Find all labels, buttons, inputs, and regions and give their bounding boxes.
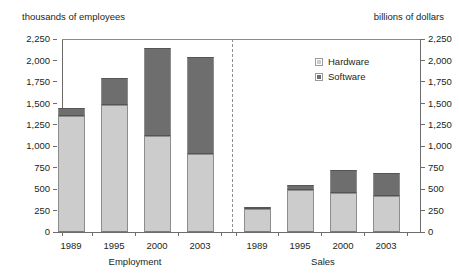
category-tick-mark <box>62 232 63 236</box>
group-axis-label-sales: Sales <box>263 256 383 267</box>
bar-sales-2003 <box>373 173 400 232</box>
left-axis-tick-label: 2,250 <box>20 34 50 44</box>
right-axis-tick-label: 2,000 <box>428 56 458 66</box>
plot-baseline <box>57 232 425 233</box>
left-axis-tick-label: 1,750 <box>20 77 50 87</box>
bar-sales-1995 <box>287 185 314 232</box>
bar-segment-hardware <box>330 193 357 232</box>
bar-employment-2000 <box>144 48 171 232</box>
bar-segment-hardware <box>244 209 271 232</box>
legend-label: Software <box>328 71 366 82</box>
right-axis-tick-mark <box>421 146 425 147</box>
right-axis-tick-mark <box>421 103 425 104</box>
left-axis-tick-mark <box>53 189 57 190</box>
category-tick-mark <box>135 232 136 236</box>
bar-segment-software <box>144 48 171 135</box>
left-axis-tick-mark <box>53 103 57 104</box>
right-axis-tick-mark <box>421 167 425 168</box>
group-axis-label-employment: Employment <box>75 256 195 267</box>
right-axis-ticks: 2,2502,0001,7501,5001,2501,0007505002500 <box>421 39 459 232</box>
bar-sales-1989 <box>244 207 271 232</box>
chart-legend: HardwareSoftware <box>315 56 369 82</box>
bar-segment-software <box>373 173 400 196</box>
left-axis-tick-mark <box>53 210 57 211</box>
legend-swatch-fill <box>316 74 322 80</box>
left-axis-tick-label: 1,500 <box>20 99 50 109</box>
bar-segment-software <box>58 108 85 117</box>
left-axis-tick-mark <box>53 167 57 168</box>
bar-employment-2003 <box>187 57 214 232</box>
bar-segment-software <box>187 57 214 154</box>
category-tick-mark <box>321 232 322 236</box>
left-axis-tick-label: 250 <box>20 206 50 216</box>
right-axis-tick-mark <box>421 81 425 82</box>
category-tick-mark <box>221 232 222 236</box>
left-axis-tick-mark <box>53 124 57 125</box>
right-axis-tick-label: 750 <box>428 163 458 173</box>
category-label-employment-2000: 2000 <box>137 240 177 251</box>
right-axis-tick-mark <box>421 189 425 190</box>
plot-top-rule <box>62 39 420 40</box>
left-axis-tick-mark <box>53 81 57 82</box>
left-axis-tick-mark <box>53 60 57 61</box>
left-axis-tick-mark <box>53 146 57 147</box>
left-axis-tick-mark <box>53 232 57 233</box>
right-axis-tick-label: 0 <box>428 227 458 237</box>
left-axis-tick-label: 1,000 <box>20 141 50 151</box>
stacked-bar-chart: thousands of employees billions of dolla… <box>0 0 459 275</box>
category-tick-mark <box>92 232 93 236</box>
legend-entry-software[interactable]: Software <box>315 71 369 82</box>
left-axis-tick-label: 500 <box>20 184 50 194</box>
left-axis-unit-label: thousands of employees <box>22 11 125 22</box>
right-axis-tick-label: 1,500 <box>428 99 458 109</box>
right-axis-tick-label: 500 <box>428 184 458 194</box>
left-axis-tick-label: 1,250 <box>20 120 50 130</box>
bar-segment-hardware <box>287 190 314 232</box>
category-tick-mark <box>407 232 408 236</box>
bar-segment-hardware <box>58 116 85 232</box>
right-axis-tick-mark <box>421 60 425 61</box>
right-axis-tick-mark <box>421 232 425 233</box>
category-tick-mark <box>236 232 237 236</box>
bar-sales-2000 <box>330 170 357 232</box>
bar-segment-hardware <box>101 105 128 232</box>
legend-label: Hardware <box>328 56 369 67</box>
right-axis-tick-label: 250 <box>428 206 458 216</box>
category-tick-mark <box>364 232 365 236</box>
group-divider-dashed-line <box>232 39 233 232</box>
legend-swatch-icon <box>315 58 323 66</box>
legend-entry-hardware[interactable]: Hardware <box>315 56 369 67</box>
category-label-sales-2003: 2003 <box>366 240 406 251</box>
category-tick-mark <box>178 232 179 236</box>
left-axis-tick-label: 2,000 <box>20 56 50 66</box>
bar-segment-software <box>330 170 357 193</box>
legend-swatch-icon <box>315 73 323 81</box>
right-axis-tick-label: 1,250 <box>428 120 458 130</box>
category-tick-mark <box>278 232 279 236</box>
left-axis-tick-mark <box>53 39 57 40</box>
bar-employment-1995 <box>101 78 128 232</box>
category-label-employment-1989: 1989 <box>51 240 91 251</box>
category-label-sales-1989: 1989 <box>237 240 277 251</box>
left-axis-tick-label: 750 <box>20 163 50 173</box>
category-label-employment-1995: 1995 <box>94 240 134 251</box>
bar-segment-hardware <box>373 196 400 232</box>
right-axis-unit-label: billions of dollars <box>374 11 444 22</box>
bar-segment-hardware <box>187 154 214 232</box>
right-axis-tick-label: 1,000 <box>428 141 458 151</box>
legend-swatch-fill <box>316 59 322 65</box>
right-axis-tick-mark <box>421 124 425 125</box>
left-axis-ticks: 2,2502,0001,7501,5001,2501,0007505002500 <box>20 39 62 232</box>
category-label-employment-2003: 2003 <box>180 240 220 251</box>
category-label-sales-1995: 1995 <box>280 240 320 251</box>
bar-employment-1989 <box>58 108 85 232</box>
left-axis-tick-label: 0 <box>20 227 50 237</box>
right-axis-tick-mark <box>421 210 425 211</box>
right-axis-tick-label: 1,750 <box>428 77 458 87</box>
bar-segment-hardware <box>144 136 171 232</box>
bar-segment-software <box>101 78 128 105</box>
right-axis-tick-mark <box>421 39 425 40</box>
category-label-sales-2000: 2000 <box>323 240 363 251</box>
right-axis-tick-label: 2,250 <box>428 34 458 44</box>
